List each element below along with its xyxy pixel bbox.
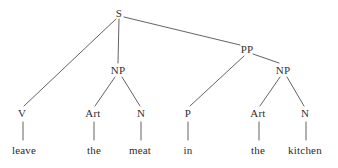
tree-node-phrase-pp: PP — [241, 44, 254, 55]
tree-node-pos-art1: Art — [85, 108, 100, 119]
tree-edge-s-to-v — [24, 19, 116, 106]
tree-edge-np1-to-art1 — [95, 77, 115, 106]
tree-node-word-w6: kitchen — [288, 145, 322, 156]
tree-edge-np2-to-n2 — [287, 77, 304, 106]
tree-node-pos-art2: Art — [250, 108, 265, 119]
tree-node-phrase-np2: NP — [276, 65, 290, 76]
tree-node-word-w1: leave — [12, 145, 36, 156]
tree-node-pos-n1: N — [137, 108, 145, 119]
tree-node-pos-v: V — [18, 108, 26, 119]
tree-edge-np1-to-n1 — [122, 77, 140, 106]
tree-edge-s-to-np1 — [118, 19, 119, 63]
tree-node-pos-n2: N — [301, 108, 309, 119]
tree-edge-pp-to-np2 — [253, 54, 279, 63]
tree-node-pos-p: P — [185, 108, 191, 119]
tree-edge-s-to-pp — [124, 17, 240, 45]
tree-edge-np2-to-art2 — [260, 77, 280, 106]
tree-edge-pp-to-p — [190, 56, 244, 106]
syntax-tree-diagram: SVNPPPArtNPNPArtNleavethemeatinthekitche… — [0, 0, 338, 168]
tree-node-word-w2: the — [87, 145, 101, 156]
tree-node-phrase-np1: NP — [111, 65, 125, 76]
tree-node-word-w3: meat — [129, 145, 151, 156]
tree-node-phrase-s: S — [116, 8, 122, 19]
tree-node-word-w5: the — [251, 145, 265, 156]
tree-node-word-w4: in — [184, 145, 193, 156]
